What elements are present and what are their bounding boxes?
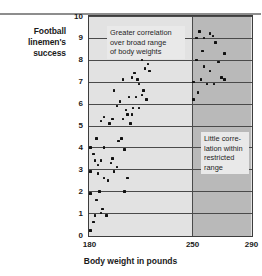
data-point <box>101 208 104 211</box>
data-point <box>89 146 92 149</box>
y-tick-9: 9 <box>69 33 83 42</box>
data-point <box>195 37 198 40</box>
annotation-line: restricted <box>204 153 246 163</box>
data-point <box>147 63 150 66</box>
y-tick-6: 6 <box>69 99 83 108</box>
data-point <box>136 78 139 81</box>
data-point <box>103 146 106 149</box>
data-point <box>108 122 111 125</box>
data-point <box>209 32 212 35</box>
restricted-range-annotation: Little corre-lation withinrestrictedrang… <box>201 132 249 174</box>
data-point <box>132 107 135 110</box>
gridline-y-10 <box>89 16 252 17</box>
y-axis-title-line1: Football linemen's <box>0 26 66 48</box>
data-point <box>92 153 95 156</box>
data-point <box>129 122 132 125</box>
y-tick-7: 7 <box>69 77 83 86</box>
data-point <box>138 83 141 86</box>
data-point <box>206 83 209 86</box>
data-point <box>92 221 95 224</box>
data-point <box>110 162 113 165</box>
data-point <box>123 148 126 151</box>
data-point <box>97 172 100 175</box>
annotation-line: Little corre- <box>204 134 246 144</box>
y-tick-8: 8 <box>69 55 83 64</box>
y-tick-5: 5 <box>69 121 83 130</box>
data-point <box>141 94 144 97</box>
data-point <box>144 67 147 70</box>
x-tick-290: 290 <box>237 240 262 249</box>
data-point <box>148 70 151 73</box>
chart-figure: Football linemen's success 012345678910 … <box>0 0 261 276</box>
plot-area: Greater correlationover broad rangeof bo… <box>88 15 253 237</box>
data-point <box>105 214 108 217</box>
data-point <box>125 109 128 112</box>
y-tick-4: 4 <box>69 143 83 152</box>
data-point <box>201 50 204 53</box>
data-point <box>95 199 98 202</box>
data-point <box>113 89 116 92</box>
y-tick-10: 10 <box>69 12 83 21</box>
data-point <box>197 91 200 94</box>
data-point <box>200 78 203 81</box>
data-point <box>209 70 212 73</box>
data-point <box>145 98 148 101</box>
data-point <box>135 96 138 99</box>
data-point <box>103 177 106 180</box>
range-divider-line <box>192 16 193 236</box>
data-point <box>122 118 125 121</box>
annotation-line: lation within <box>204 144 246 154</box>
data-point <box>113 170 116 173</box>
data-point <box>203 65 206 68</box>
data-point <box>123 190 126 193</box>
annotation-line: over broad range <box>110 38 182 48</box>
annotation-line: Greater correlation <box>110 28 182 38</box>
data-point <box>111 157 114 160</box>
data-point <box>126 113 129 116</box>
y-axis-title: Football linemen's success <box>0 26 66 59</box>
data-point <box>217 61 220 64</box>
data-point <box>89 170 92 173</box>
y-tick-1: 1 <box>69 209 83 218</box>
data-point <box>116 166 119 169</box>
data-point <box>212 35 215 38</box>
data-point <box>133 72 136 75</box>
data-point <box>89 192 92 195</box>
data-point <box>100 159 103 162</box>
data-point <box>192 98 195 101</box>
annotation-line: range <box>204 163 246 173</box>
data-point <box>203 37 206 40</box>
x-tick-250: 250 <box>178 240 208 249</box>
gridline-y-5 <box>89 126 252 127</box>
data-point <box>117 140 120 143</box>
gridline-y-1 <box>89 213 252 214</box>
data-point <box>94 214 97 217</box>
data-point <box>138 107 141 110</box>
data-point <box>89 229 92 232</box>
data-point <box>192 81 195 84</box>
gridline-y-6 <box>89 104 252 105</box>
annotation-line: of body weights <box>110 47 182 57</box>
data-point <box>128 96 131 99</box>
data-point <box>141 59 144 62</box>
broad-range-annotation: Greater correlationover broad rangeof bo… <box>107 26 185 59</box>
y-tick-2: 2 <box>69 187 83 196</box>
x-tick-180: 180 <box>75 240 105 249</box>
data-point <box>142 89 145 92</box>
data-point <box>100 120 103 123</box>
gridline-y-7 <box>89 82 252 83</box>
y-axis-title-line2: success <box>0 48 66 59</box>
data-point <box>214 41 217 44</box>
gridline-y-2 <box>89 191 252 192</box>
data-point <box>122 78 125 81</box>
data-point <box>94 159 97 162</box>
data-point <box>120 137 123 140</box>
gridline-y-8 <box>89 60 252 61</box>
data-point <box>131 113 134 116</box>
data-point <box>126 177 129 180</box>
data-point <box>97 164 100 167</box>
data-point <box>98 190 101 193</box>
y-tick-0: 0 <box>69 231 83 240</box>
data-point <box>103 116 106 119</box>
data-point <box>223 52 226 55</box>
